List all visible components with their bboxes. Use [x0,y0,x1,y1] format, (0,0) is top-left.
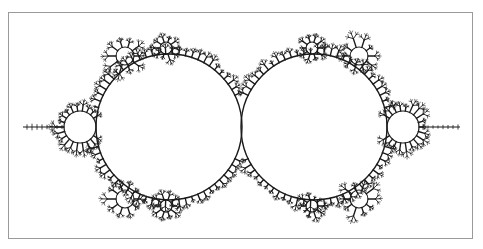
bulb-outline [241,54,387,200]
bulb-outline [64,111,96,143]
bulb-outline [387,111,419,143]
bulb-outline [306,200,318,212]
julia-set-figure [0,0,483,249]
bulb-outline [306,42,318,54]
bulb-outline [96,54,242,200]
bulb-outline [350,47,368,65]
